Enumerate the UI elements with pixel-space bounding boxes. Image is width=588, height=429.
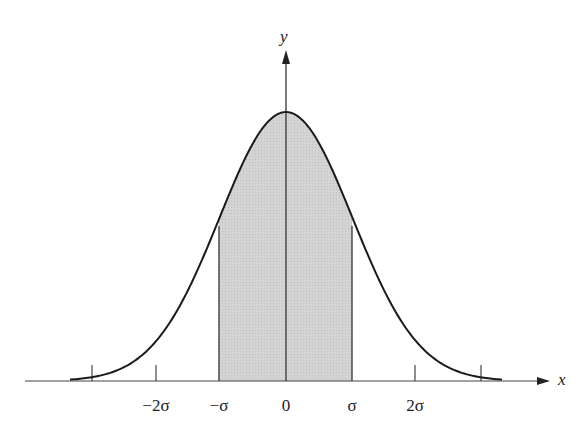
tick-label-2sigma: 2σ [406, 396, 424, 415]
y-axis-arrow-icon [282, 50, 290, 64]
tick-label-minus-sigma: −σ [210, 396, 229, 415]
tick-label-sigma: σ [347, 396, 356, 415]
y-axis-label: y [278, 27, 288, 46]
x-axis-arrow-icon [537, 377, 550, 385]
tick-label-minus-2sigma: −2σ [142, 396, 169, 415]
tick-label-zero: 0 [282, 396, 291, 415]
normal-distribution-diagram: y x −2σ −σ 0 σ 2σ [0, 0, 588, 429]
x-axis-label: x [557, 370, 566, 389]
